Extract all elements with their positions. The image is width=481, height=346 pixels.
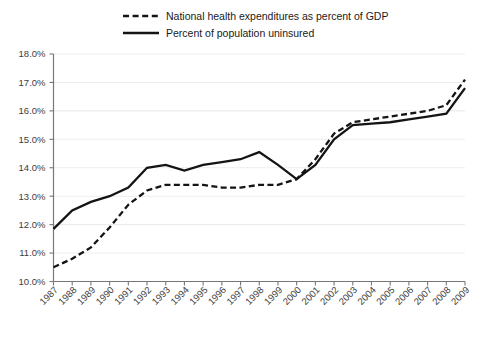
y-tick-label: 10.0% xyxy=(19,276,46,287)
x-tick-label: 2007 xyxy=(411,284,434,307)
x-tick-label: 1997 xyxy=(224,284,247,307)
series-line-national-health-expenditures xyxy=(54,80,466,268)
x-tick-label: 2000 xyxy=(280,284,303,307)
chart-x-tick-labels: 1987198819891990199119921993199419951996… xyxy=(37,284,471,307)
chart-plot-area: 18.0%17.0%16.0%15.0%14.0%13.0%12.0%11.0%… xyxy=(0,0,481,346)
x-tick-label: 2004 xyxy=(355,284,378,307)
x-tick-label: 1995 xyxy=(187,284,210,307)
x-tick-label: 1989 xyxy=(75,284,98,307)
series-line-percent-uninsured xyxy=(54,88,466,229)
y-tick-label: 15.0% xyxy=(19,134,46,145)
x-tick-label: 2005 xyxy=(374,284,397,307)
y-tick-label: 14.0% xyxy=(19,162,46,173)
x-tick-label: 2002 xyxy=(318,284,341,307)
x-tick-label: 1992 xyxy=(131,284,154,307)
x-tick-label: 1987 xyxy=(37,284,60,307)
x-tick-label: 1988 xyxy=(56,284,79,307)
y-tick-label: 18.0% xyxy=(19,48,46,59)
x-tick-label: 2001 xyxy=(299,284,322,307)
x-tick-label: 1993 xyxy=(149,284,172,307)
y-tick-label: 12.0% xyxy=(19,219,46,230)
x-tick-label: 2008 xyxy=(430,284,453,307)
x-tick-label: 2009 xyxy=(449,284,472,307)
y-tick-label: 16.0% xyxy=(19,105,46,116)
y-tick-label: 13.0% xyxy=(19,191,46,202)
x-tick-label: 1996 xyxy=(206,284,229,307)
chart-container: National health expenditures as percent … xyxy=(0,0,481,346)
x-tick-label: 1990 xyxy=(93,284,116,307)
x-tick-label: 2003 xyxy=(336,284,359,307)
chart-series-lines xyxy=(54,80,466,268)
x-tick-label: 1994 xyxy=(168,284,191,307)
y-tick-label: 11.0% xyxy=(19,247,46,258)
x-tick-label: 1991 xyxy=(112,284,135,307)
x-tick-label: 1998 xyxy=(243,284,266,307)
chart-gridlines xyxy=(54,54,466,253)
x-tick-label: 2006 xyxy=(393,284,416,307)
y-tick-label: 17.0% xyxy=(19,77,46,88)
chart-y-tick-labels: 18.0%17.0%16.0%15.0%14.0%13.0%12.0%11.0%… xyxy=(19,48,46,287)
x-tick-label: 1999 xyxy=(262,284,285,307)
